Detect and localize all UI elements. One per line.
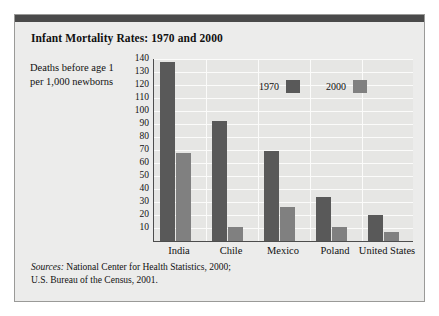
sources-line-2: U.S. Bureau of the Census, 2001.: [31, 275, 158, 285]
bar-1970-chile: [212, 121, 227, 241]
bar-1970-mexico: [264, 151, 279, 241]
legend-label-2000: 2000: [326, 81, 346, 92]
bar-1970-poland: [316, 197, 331, 241]
bar-1970-india: [160, 62, 175, 241]
y-tick-130: 130: [135, 67, 149, 77]
y-tick-80: 80: [140, 132, 150, 142]
y-tick-30: 30: [140, 197, 150, 207]
bar-group-chile: [206, 59, 258, 241]
bar-2000-united-states: [384, 232, 399, 241]
bar-2000-poland: [332, 227, 347, 241]
infant-mortality-figure: Infant Mortality Rates: 1970 and 2000 De…: [14, 14, 425, 302]
y-tick-90: 90: [140, 119, 150, 129]
sources-label: Sources:: [31, 262, 64, 272]
y-tick-60: 60: [140, 158, 150, 168]
legend-label-1970: 1970: [259, 81, 279, 92]
legend-swatch-2000: [353, 80, 367, 93]
sources-note: Sources: National Center for Health Stat…: [31, 261, 231, 287]
y-tick-140: 140: [135, 54, 149, 64]
y-tick-120: 120: [135, 80, 149, 90]
y-tick-40: 40: [140, 184, 150, 194]
bar-1970-united-states: [368, 215, 383, 241]
y-tick-110: 110: [135, 93, 149, 103]
bar-group-india: [154, 59, 206, 241]
y-axis-tick-labels: 102030405060708090100110120130140: [125, 59, 149, 241]
chart-legend: 1970 2000: [259, 80, 367, 93]
y-axis-caption: Deaths before age 1 per 1,000 newborns: [30, 61, 122, 88]
bar-group-united-states: [362, 59, 414, 241]
x-tick-united-states: United States: [350, 245, 424, 257]
y-tick-70: 70: [140, 145, 150, 155]
chart-title: Infant Mortality Rates: 1970 and 2000: [31, 32, 223, 44]
figure-top-rule: [15, 15, 424, 22]
y-tick-100: 100: [135, 106, 149, 116]
sources-line-1: National Center for Health Statistics, 2…: [64, 262, 231, 272]
bar-2000-india: [176, 153, 191, 241]
y-tick-10: 10: [140, 223, 150, 233]
bar-2000-mexico: [280, 207, 295, 241]
y-tick-50: 50: [140, 171, 150, 181]
legend-swatch-1970: [286, 80, 300, 93]
y-tick-20: 20: [140, 210, 150, 220]
bar-2000-chile: [228, 227, 243, 241]
